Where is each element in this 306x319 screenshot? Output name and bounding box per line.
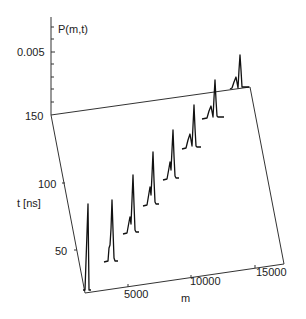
- trace-1: [83, 204, 91, 290]
- trace-2: [104, 200, 118, 262]
- right-edge: [250, 87, 284, 264]
- trace-3: [123, 175, 139, 234]
- trace-8: [230, 55, 249, 89]
- t-axis-label: t [ns]: [17, 197, 41, 209]
- p-tick-0005: 0.005: [17, 46, 45, 58]
- m-axis: [85, 264, 284, 293]
- trace-6: [182, 105, 201, 149]
- m-tick-5000: 5000: [124, 288, 148, 300]
- back-edge: [51, 87, 250, 115]
- t-tick-100: 100: [38, 178, 56, 190]
- trace-7: [202, 80, 224, 119]
- waterfall-chart: P(m,t) 0.005 150 100 t [ns] 50 5000 1000…: [0, 0, 306, 319]
- trace-4: [143, 152, 159, 206]
- t-tick-50: 50: [55, 245, 67, 257]
- m-tick-15000: 15000: [256, 266, 287, 278]
- t-tick-150: 150: [25, 110, 43, 122]
- m-axis-label: m: [181, 292, 190, 304]
- trace-5: [163, 130, 179, 180]
- p-axis-ticks: [51, 27, 55, 102]
- m-tick-10000: 10000: [190, 275, 221, 287]
- t-axis: [51, 115, 85, 293]
- p-axis-label: P(m,t): [58, 23, 88, 35]
